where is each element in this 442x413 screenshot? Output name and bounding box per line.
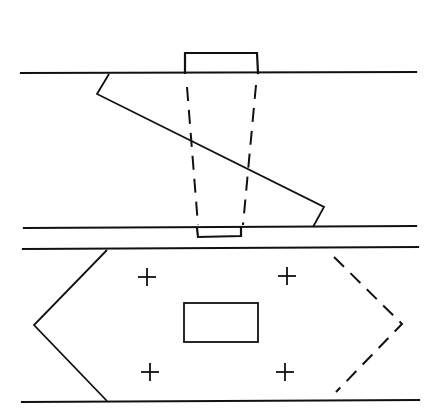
hidden-line-right [243,85,256,225]
bottom-block-outline [197,227,241,237]
plan-view [22,247,419,402]
cross-marker-icon [141,363,159,381]
left-chevron-outline [34,250,107,401]
side-view [21,53,416,237]
top-block-outline [185,53,258,73]
cross-marker-icon [276,363,294,381]
side-view-top-line [21,72,416,73]
side-view-bottom-line [24,226,416,228]
right-chevron-hidden-outline [334,257,402,392]
center-rectangle [184,303,258,342]
cross-marker-icon [138,268,156,286]
technical-drawing [0,0,442,413]
diagonal-wedge-line [97,74,324,227]
plan-view-top-line [23,247,418,249]
cross-markers [138,267,296,381]
cross-marker-icon [278,267,296,285]
plan-view-bottom-line [22,400,419,402]
hidden-line-left [187,87,198,225]
